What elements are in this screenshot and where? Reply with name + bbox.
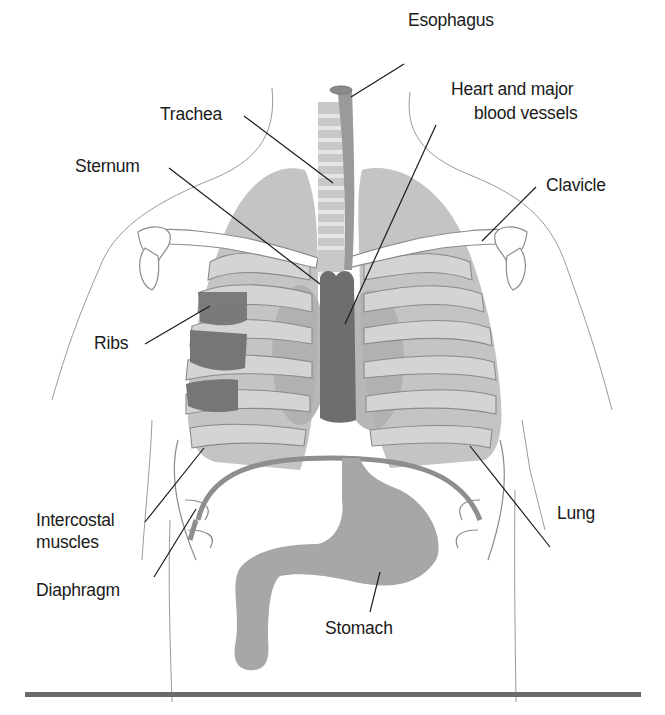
leader-line-lung <box>470 446 550 547</box>
label-intercostal-line1: Intercostal <box>36 510 115 531</box>
heart-major-vessels <box>320 271 356 423</box>
respiratory-anatomy-figure: Esophagus Trachea Heart and major blood … <box>0 0 665 715</box>
leader-line-esophagus <box>351 64 404 97</box>
label-intercostal-line2: muscles <box>36 532 99 553</box>
label-stomach: Stomach <box>325 618 393 639</box>
label-esophagus: Esophagus <box>408 10 494 31</box>
label-diaphragm: Diaphragm <box>36 580 120 601</box>
label-trachea: Trachea <box>160 104 222 125</box>
bottom-rule <box>25 692 641 697</box>
label-ribs: Ribs <box>94 333 128 354</box>
label-lung: Lung <box>557 503 595 524</box>
label-sternum: Sternum <box>75 156 140 177</box>
diaphragm <box>198 458 480 520</box>
label-heart-line1: Heart and major <box>451 79 573 100</box>
intercostal-muscles <box>186 292 247 412</box>
label-heart-line2: blood vessels <box>474 103 577 124</box>
label-clavicle: Clavicle <box>546 175 606 196</box>
trachea <box>318 102 344 292</box>
